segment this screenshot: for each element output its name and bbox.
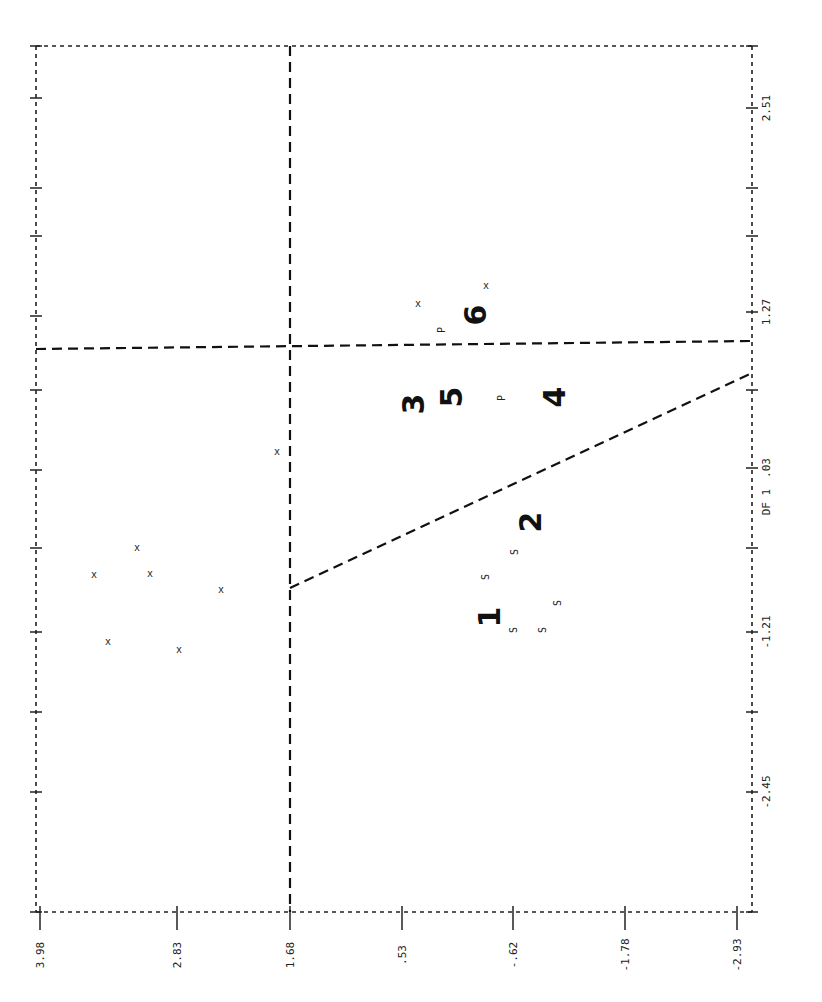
discriminant-function-plot: 2.51 1.27 .03 -1.21 -2.45 DF 1 3.98 2.83… bbox=[0, 0, 822, 1002]
df1-tick-label: -1.21 bbox=[760, 615, 773, 648]
df2-tick-label: 3.98 bbox=[34, 942, 47, 969]
df2-tick-label: 1.68 bbox=[284, 942, 297, 969]
df1-tick-label: 2.51 bbox=[760, 95, 773, 122]
x-marker: x bbox=[105, 636, 111, 647]
df1-tick-label: 1.27 bbox=[760, 299, 773, 326]
x-marker: x bbox=[415, 298, 421, 309]
df2-tick-label: -1.78 bbox=[619, 938, 632, 971]
df1-axis-title: DF 1 bbox=[760, 489, 773, 516]
df1-tick-labels: 2.51 1.27 .03 -1.21 -2.45 DF 1 bbox=[760, 95, 773, 809]
p-marker: P bbox=[436, 327, 447, 333]
diagonal-partition-line bbox=[290, 373, 752, 588]
x-marker: x bbox=[147, 568, 153, 579]
centroid-label-2: 2 bbox=[513, 512, 548, 533]
df2-tick-label: 2.83 bbox=[171, 942, 184, 969]
centroid-label-5: 5 bbox=[434, 387, 469, 408]
df1-tick-label: -2.45 bbox=[760, 775, 773, 808]
p-marker: P bbox=[496, 395, 507, 401]
horizontal-partition-line bbox=[36, 341, 752, 349]
x-marker: x bbox=[218, 584, 224, 595]
df1-tick-label: .03 bbox=[760, 458, 773, 478]
s-marker: S bbox=[552, 600, 563, 606]
df2-tick-labels: 3.98 2.83 1.68 .53 -.62 -1.78 -2.93 bbox=[34, 938, 744, 971]
centroid-label-1: 1 bbox=[472, 607, 507, 628]
s-marker: S bbox=[509, 549, 520, 555]
x-marker: x bbox=[483, 280, 489, 291]
df2-tick-label: -2.93 bbox=[731, 938, 744, 971]
s-marker: S bbox=[480, 574, 491, 580]
x-marker: x bbox=[91, 569, 97, 580]
centroid-label-6: 6 bbox=[458, 305, 493, 326]
partition-lines bbox=[36, 46, 752, 912]
centroid-label-4: 4 bbox=[537, 387, 572, 408]
x-marker: x bbox=[134, 542, 140, 553]
plot-frame bbox=[36, 46, 752, 912]
df2-tick-marks bbox=[40, 906, 737, 930]
df2-tick-label: .53 bbox=[396, 945, 409, 965]
df2-tick-label: -.62 bbox=[507, 942, 520, 969]
centroid-label-3: 3 bbox=[396, 394, 431, 415]
x-marker: x bbox=[176, 644, 182, 655]
s-marker: S bbox=[508, 627, 519, 633]
x-marker: x bbox=[274, 446, 280, 457]
s-marker: S bbox=[537, 627, 548, 633]
